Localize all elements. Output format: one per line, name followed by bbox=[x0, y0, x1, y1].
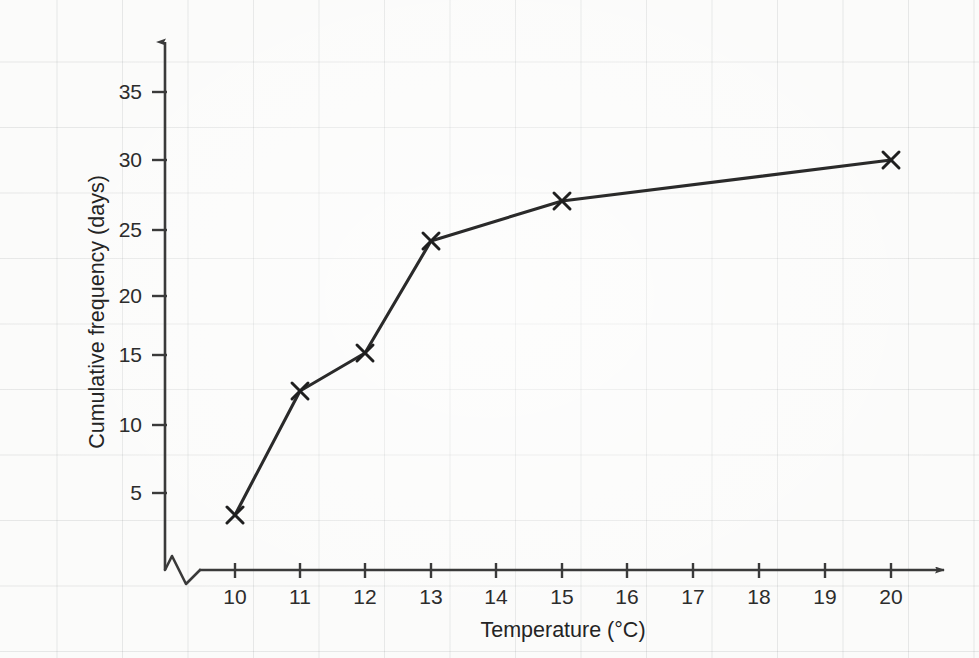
x-tick-label: 18 bbox=[747, 585, 770, 608]
y-tick-label: 20 bbox=[119, 284, 142, 307]
cumulative-frequency-chart: 35 30 25 20 15 10 bbox=[0, 0, 979, 658]
chart-page: 35 30 25 20 15 10 bbox=[0, 0, 979, 658]
x-tick-label: 14 bbox=[484, 585, 508, 608]
y-tick-label: 35 bbox=[119, 80, 142, 103]
y-axis-ticks: 35 30 25 20 15 10 bbox=[119, 80, 167, 504]
cumulative-frequency-line bbox=[235, 160, 891, 515]
y-tick-15: 15 bbox=[119, 343, 167, 366]
x-tick-label: 11 bbox=[289, 585, 311, 608]
y-tick-20: 20 bbox=[119, 284, 167, 307]
data-point-marker bbox=[227, 507, 243, 523]
y-tick-30: 30 bbox=[119, 148, 167, 171]
x-tick-label: 10 bbox=[223, 585, 246, 608]
y-tick-label: 10 bbox=[119, 413, 142, 436]
x-tick-label: 16 bbox=[615, 585, 638, 608]
data-point-marker bbox=[357, 345, 373, 361]
y-tick-label: 15 bbox=[119, 343, 142, 366]
x-tick-label: 19 bbox=[813, 585, 836, 608]
y-tick-label: 30 bbox=[119, 148, 142, 171]
data-point-marker bbox=[292, 383, 308, 399]
y-tick-25: 25 bbox=[119, 218, 167, 241]
x-tick-label: 13 bbox=[419, 585, 442, 608]
y-tick-35: 35 bbox=[119, 80, 167, 103]
x-tick-label: 15 bbox=[550, 585, 573, 608]
x-tick-label: 12 bbox=[353, 585, 376, 608]
x-tick-label: 20 bbox=[879, 585, 902, 608]
data-point-marker bbox=[423, 233, 439, 249]
x-tick-label: 17 bbox=[681, 585, 704, 608]
y-tick-10: 10 bbox=[119, 413, 167, 436]
x-axis-title: Temperature (°C) bbox=[480, 618, 645, 642]
y-axis-title: Cumulative frequency (days) bbox=[85, 175, 109, 449]
y-tick-label: 5 bbox=[130, 481, 142, 504]
x-axis-break-zigzag bbox=[165, 556, 200, 584]
axes bbox=[165, 42, 944, 584]
y-tick-label: 25 bbox=[119, 218, 142, 241]
y-tick-5: 5 bbox=[130, 481, 167, 504]
data-series bbox=[227, 152, 899, 523]
